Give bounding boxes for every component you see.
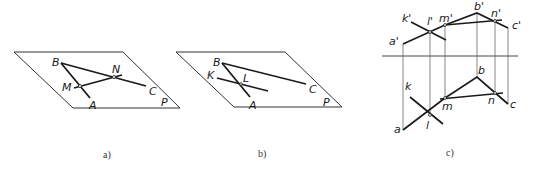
label-m-a: M (62, 81, 72, 94)
label-k-prime: k' (402, 12, 411, 25)
point-m-a (79, 85, 82, 88)
label-m: m (442, 100, 453, 113)
point-l (429, 114, 432, 117)
diagram-canvas: B M N A C P B K L A C P (0, 0, 534, 176)
label-c-b: C (309, 83, 317, 96)
figure-c: k' l' m' b' n' c' a' k b m n c l a (382, 0, 521, 136)
label-n: n (488, 94, 495, 107)
plane-p-a (14, 52, 180, 108)
label-n-a: N (112, 63, 120, 76)
label-p-a: P (161, 96, 168, 109)
caption-b: b) (258, 148, 266, 160)
label-m-prime: m' (439, 12, 453, 25)
label-b: b (478, 64, 485, 77)
label-l-prime: l' (427, 15, 433, 28)
label-b-b: B (213, 56, 221, 69)
point-n-prime (494, 20, 497, 23)
label-c: c (510, 98, 516, 111)
label-c-prime: c' (512, 19, 521, 32)
label-a-prime: a' (389, 35, 399, 48)
line-bc-a (61, 63, 146, 86)
label-k-b: K (207, 69, 215, 82)
label-a: a (394, 123, 401, 136)
label-a-a: A (88, 99, 97, 112)
label-c-a: C (149, 85, 157, 98)
label-a-b: A (248, 99, 257, 112)
label-k: k (405, 80, 412, 93)
label-l: l (426, 119, 429, 132)
label-n-prime: n' (491, 7, 501, 20)
point-m (444, 97, 447, 100)
caption-c: c) (446, 147, 454, 159)
figure-b: B K L A C P (176, 52, 342, 112)
point-l-b (240, 83, 243, 86)
label-b-prime: b' (474, 0, 484, 13)
plane-p-b (176, 52, 342, 107)
figure-a: B M N A C P (14, 52, 180, 112)
point-l-prime (429, 31, 432, 34)
line-bc-b (222, 63, 306, 84)
caption-a: a) (103, 149, 111, 161)
label-p-b: P (323, 96, 330, 109)
label-b-a: B (52, 56, 60, 69)
projection-lines (403, 13, 508, 130)
label-l-b: L (243, 72, 249, 85)
